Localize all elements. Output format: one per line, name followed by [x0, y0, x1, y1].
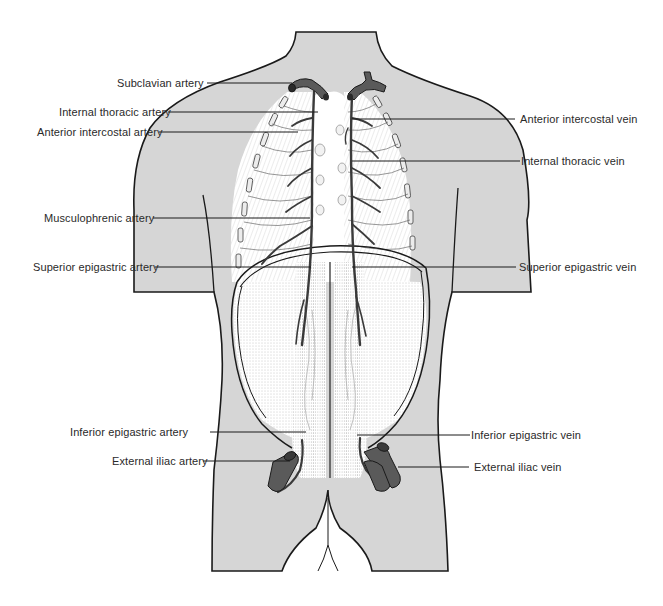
label-anterior-intercostal-artery: Anterior intercostal artery	[37, 126, 163, 138]
label-inferior-epigastric-vein: Inferior epigastric vein	[471, 429, 581, 441]
label-inferior-epigastric-artery: Inferior epigastric artery	[70, 426, 188, 438]
label-internal-thoracic-artery: Internal thoracic artery	[59, 106, 171, 118]
label-subclavian-artery: Subclavian artery	[117, 77, 204, 89]
label-superior-epigastric-vein: Superior epigastric vein	[519, 261, 636, 273]
anatomy-diagram: Subclavian artery Internal thoracic arte…	[0, 0, 663, 606]
label-internal-thoracic-vein: Internal thoracic vein	[521, 155, 625, 167]
label-anterior-intercostal-vein: Anterior intercostal vein	[520, 113, 637, 125]
label-superior-epigastric-artery: Superior epigastric artery	[33, 261, 159, 273]
label-external-iliac-vein: External iliac vein	[474, 461, 562, 473]
torso-illustration	[0, 0, 663, 606]
label-external-iliac-artery: External iliac artery	[112, 455, 208, 467]
label-musculophrenic-artery: Musculophrenic artery	[44, 212, 154, 224]
